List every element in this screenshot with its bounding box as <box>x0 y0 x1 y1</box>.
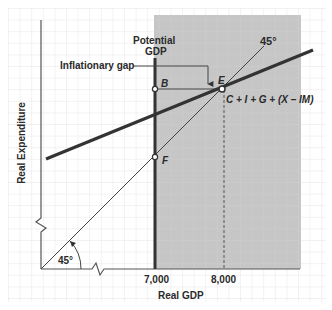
inflationary-gap-diagram: Potential GDP Inflationary gap 45° B E F… <box>0 0 332 310</box>
x-axis-label: Real GDP <box>158 291 204 301</box>
point-b-label: B <box>161 79 168 89</box>
y-axis-label: Real Expenditure <box>17 102 27 184</box>
potential-gdp-label-line2: GDP <box>145 47 167 57</box>
x-tick-7000: 7,000 <box>144 275 169 285</box>
forty-five-top-label: 45° <box>260 36 277 47</box>
potential-gdp-label-line1: Potential <box>133 36 175 46</box>
point-b <box>152 86 157 91</box>
inflationary-gap-label: Inflationary gap <box>60 61 134 71</box>
forty-five-angle-label: 45° <box>58 256 73 266</box>
point-e <box>219 86 225 92</box>
x-tick-8000: 8,000 <box>211 275 236 285</box>
point-e-label: E <box>218 76 225 86</box>
point-f-label: F <box>162 156 168 166</box>
expenditure-line-label: C + I + G + (X – IM) <box>226 95 314 105</box>
point-f <box>152 154 157 159</box>
